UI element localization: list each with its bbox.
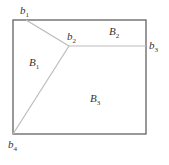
label-b1: b1 [20,5,29,19]
region-label-B2: B2 [109,26,119,40]
label-b2: b2 [67,31,76,45]
frame-rect [13,20,146,134]
region-label-B3: B3 [90,93,100,107]
region-label-B1: B1 [29,57,39,71]
label-b3: b3 [149,40,158,54]
edge-b2-b4 [13,46,69,134]
edge-b1-b2 [26,20,69,46]
label-b4: b4 [8,139,17,153]
diagram-canvas [0,0,169,165]
